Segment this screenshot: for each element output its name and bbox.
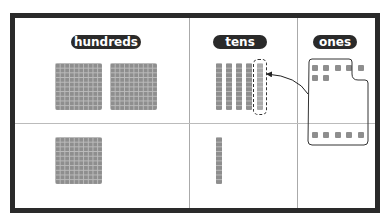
regroup-annotation: [15, 18, 375, 208]
place-value-chart: hundreds tens ones: [10, 13, 380, 213]
